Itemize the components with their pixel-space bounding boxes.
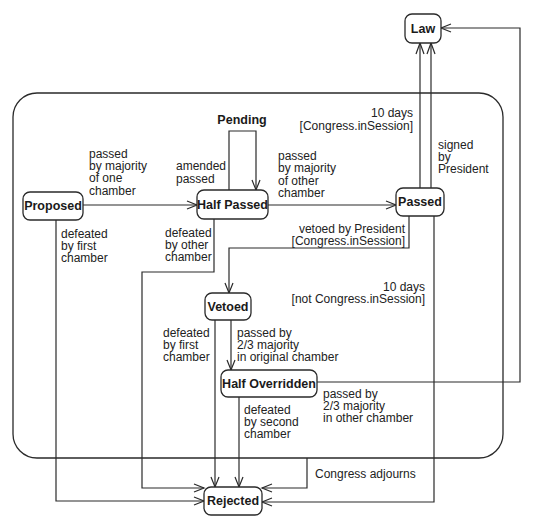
svg-text:Congress adjourns: Congress adjourns	[315, 467, 416, 481]
svg-text:President: President	[438, 162, 489, 176]
label-passed-to-rejected-pocket-veto: 10 days [not Congress.inSession]	[292, 280, 425, 306]
svg-text:in other chamber: in other chamber	[323, 411, 413, 425]
svg-text:Rejected: Rejected	[207, 494, 259, 508]
state-half-passed[interactable]: Half Passed	[197, 190, 268, 219]
transition-vetoed-to-half-overridden	[227, 320, 235, 370]
transition-vetoed-to-rejected	[211, 320, 219, 487]
label-congress-adjourns: Congress adjourns	[315, 467, 416, 481]
transition-congress-adjourns	[262, 458, 307, 492]
label-half-overridden-to-law: passed by 2/3 majority in other chamber	[323, 387, 413, 425]
svg-text:chamber: chamber	[278, 186, 325, 200]
svg-text:Passed: Passed	[398, 195, 442, 209]
svg-text:10 days: 10 days	[371, 106, 413, 120]
svg-text:[Congress.inSession]: [Congress.inSession]	[292, 234, 405, 248]
svg-text:passed: passed	[176, 172, 215, 186]
label-vetoed-to-half-overridden: passed by 2/3 majority in original chamb…	[237, 326, 338, 364]
svg-text:in original chamber: in original chamber	[237, 350, 338, 364]
svg-text:by majority: by majority	[278, 161, 336, 175]
label-passed-to-law-signed: signed by President	[438, 138, 489, 176]
transition-passed-to-law-signed	[427, 43, 435, 188]
state-proposed[interactable]: Proposed	[23, 192, 83, 220]
state-vetoed[interactable]: Vetoed	[205, 293, 251, 320]
svg-text:[not Congress.inSession]: [not Congress.inSession]	[292, 292, 425, 306]
label-proposed-to-half-passed: passed by majority of one chamber	[89, 147, 147, 198]
label-passed-to-law-10-days: 10 days [Congress.inSession]	[300, 106, 413, 133]
svg-text:Proposed: Proposed	[24, 199, 82, 213]
label-proposed-to-rejected: defeated by first chamber	[61, 227, 108, 265]
svg-text:Half Passed: Half Passed	[197, 198, 268, 212]
svg-text:amended: amended	[176, 159, 226, 173]
transition-pending-self-loop	[229, 131, 260, 190]
label-half-passed-to-passed: passed by majority of other chamber	[278, 149, 336, 200]
label-half-passed-to-rejected: defeated by other chamber	[165, 226, 212, 264]
label-half-overridden-to-rejected: defeated by second chamber	[244, 403, 299, 441]
transition-half-overridden-to-rejected	[235, 397, 243, 487]
state-rejected[interactable]: Rejected	[204, 487, 262, 515]
state-passed[interactable]: Passed	[396, 188, 444, 216]
svg-text:of one: of one	[89, 171, 123, 185]
label-pending-self-loop: amended passed	[176, 159, 226, 186]
svg-text:chamber: chamber	[163, 350, 210, 364]
label-passed-to-vetoed: vetoed by President [Congress.inSession]	[292, 222, 406, 248]
transition-half-passed-to-passed	[268, 201, 396, 209]
state-pending-label: Pending	[217, 113, 266, 127]
svg-text:chamber: chamber	[165, 250, 212, 264]
state-diagram: Law Proposed Half Passed Passed Vetoed H…	[0, 0, 534, 526]
state-half-overridden[interactable]: Half Overridden	[221, 370, 317, 397]
transition-passed-to-law-10-days	[416, 43, 424, 188]
svg-text:chamber: chamber	[89, 184, 136, 198]
label-vetoed-to-rejected: defeated by first chamber	[163, 326, 210, 364]
svg-text:[Congress.inSession]: [Congress.inSession]	[300, 119, 413, 133]
svg-text:Vetoed: Vetoed	[208, 300, 249, 314]
svg-text:chamber: chamber	[61, 251, 108, 265]
transition-proposed-to-half-passed	[83, 201, 197, 209]
svg-text:chamber: chamber	[244, 427, 291, 441]
svg-text:Half Overridden: Half Overridden	[222, 377, 316, 391]
state-law[interactable]: Law	[405, 14, 441, 43]
svg-text:Law: Law	[411, 22, 436, 36]
